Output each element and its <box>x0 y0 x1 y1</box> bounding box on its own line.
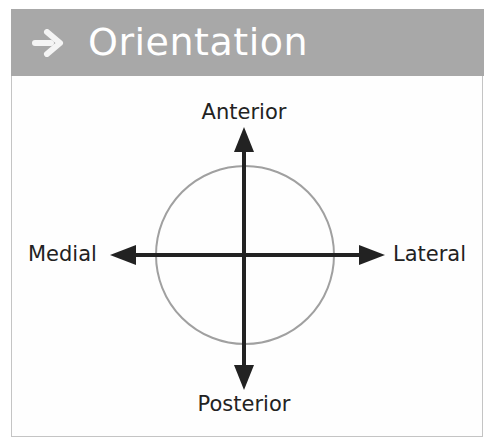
label-lateral: Lateral <box>393 242 466 266</box>
label-medial: Medial <box>28 242 97 266</box>
arrow-up-icon <box>234 127 254 152</box>
arrow-left-icon <box>110 245 136 265</box>
label-anterior: Anterior <box>0 100 488 124</box>
arrow-down-icon <box>234 365 254 390</box>
orientation-diagram <box>0 0 488 440</box>
arrow-right-icon <box>359 245 385 265</box>
label-posterior: Posterior <box>0 392 488 416</box>
